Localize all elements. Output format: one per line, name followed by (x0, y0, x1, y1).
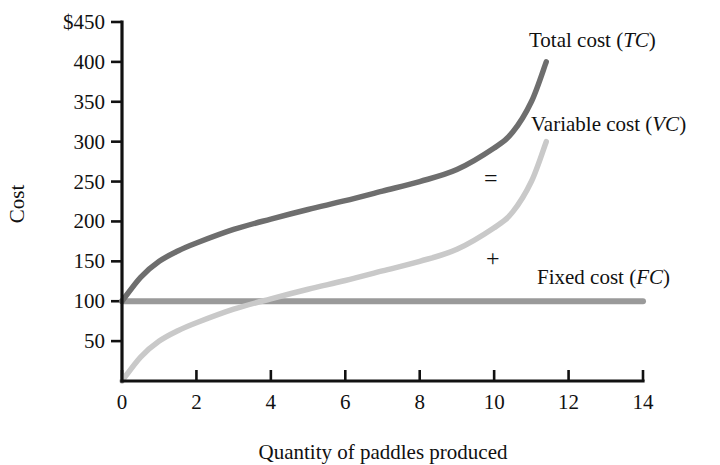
cost-curves-chart: 50100150200250300350400$450 02468101214 … (0, 0, 720, 465)
total-cost-label-text: Total cost ( (529, 28, 623, 52)
y-tick-label: 50 (84, 329, 105, 353)
plus-symbol: + (486, 245, 500, 271)
y-tick-label: 350 (74, 90, 106, 114)
y-tick-label: 100 (74, 289, 106, 313)
chart-background (0, 0, 720, 465)
fixed-cost-abbr: FC (635, 265, 664, 289)
variable-cost-label-text: Variable cost ( (531, 112, 652, 136)
x-tick-label: 0 (117, 390, 128, 414)
y-tick-label: 300 (74, 130, 106, 154)
y-axis-title: Cost (5, 185, 29, 224)
x-tick-label: 14 (633, 390, 655, 414)
total-cost-paren: ) (649, 28, 656, 52)
x-tick-label: 2 (191, 390, 202, 414)
variable-cost-abbr: VC (652, 112, 680, 136)
y-tick-label: 250 (74, 170, 106, 194)
y-tick-label: 400 (74, 50, 106, 74)
x-tick-label: 8 (414, 390, 425, 414)
fixed-cost-label-text: Fixed cost ( (537, 265, 636, 289)
x-tick-label: 12 (558, 390, 579, 414)
variable-cost-label: Variable cost (VC) (531, 112, 686, 136)
total-cost-abbr: TC (623, 28, 650, 52)
total-cost-label: Total cost (TC) (529, 28, 656, 52)
x-tick-label: 10 (484, 390, 505, 414)
variable-cost-paren: ) (679, 112, 686, 136)
x-axis-title: Quantity of paddles produced (258, 440, 508, 464)
fixed-cost-paren: ) (663, 265, 670, 289)
y-tick-label: $450 (63, 10, 105, 34)
x-tick-label: 6 (340, 390, 351, 414)
equals-symbol: = (484, 165, 498, 191)
fixed-cost-label: Fixed cost (FC) (537, 265, 670, 289)
y-tick-label: 150 (74, 249, 106, 273)
y-tick-label: 200 (74, 209, 106, 233)
x-tick-label: 4 (266, 390, 277, 414)
chart-canvas: 50100150200250300350400$450 02468101214 … (0, 0, 720, 465)
